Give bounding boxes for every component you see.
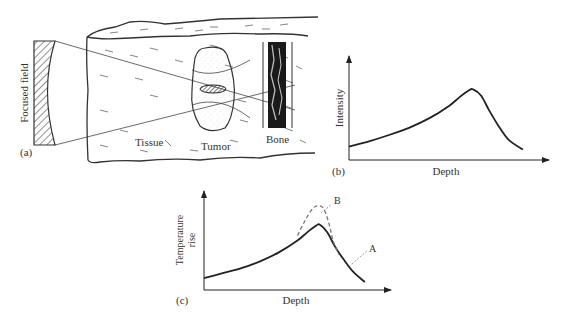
panel-a-tissue-diagram: Focused field (a) Tissue Tumor Bone bbox=[18, 17, 318, 163]
annotation-b-leader bbox=[321, 204, 332, 213]
chart-b-series-intensity-line bbox=[349, 89, 523, 150]
tissue-label: Tissue bbox=[135, 136, 163, 148]
transducer-icon bbox=[34, 41, 55, 145]
panel-b-intensity-chart: Intensity Depth (b) bbox=[332, 56, 549, 178]
chart-b-xlabel: Depth bbox=[433, 165, 460, 177]
annotation-b-label: B bbox=[334, 195, 341, 206]
chart-c-series-b-line bbox=[298, 206, 339, 255]
chart-b-ylabel: Intensity bbox=[333, 88, 345, 127]
panel-c-label: (c) bbox=[176, 294, 189, 307]
transducer-label: Focused field bbox=[18, 63, 30, 123]
figure-canvas: Focused field (a) Tissue Tumor Bone Inte… bbox=[0, 0, 566, 324]
tumor-label: Tumor bbox=[201, 140, 231, 152]
panel-a-label: (a) bbox=[20, 146, 33, 159]
chart-c-series-a-line bbox=[204, 224, 365, 282]
annotation-a-leader bbox=[352, 250, 368, 264]
panel-c-temperature-chart: Temperature rise Depth (c) B A bbox=[174, 191, 391, 307]
chart-c-xlabel: Depth bbox=[283, 294, 310, 306]
beam-line-lower bbox=[55, 85, 295, 145]
beam-line-upper bbox=[55, 41, 295, 110]
bone-label: Bone bbox=[266, 133, 289, 145]
focal-spot bbox=[200, 85, 226, 93]
bone-region bbox=[263, 42, 292, 128]
annotation-a-label: A bbox=[369, 243, 377, 254]
svg-text:rise: rise bbox=[186, 232, 197, 247]
panel-b-label: (b) bbox=[332, 165, 345, 178]
chart-c-ylabel: Temperature rise bbox=[174, 214, 197, 265]
svg-text:Temperature: Temperature bbox=[174, 214, 185, 265]
